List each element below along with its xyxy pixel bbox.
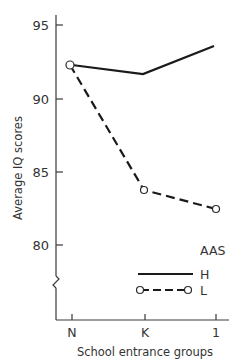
y-axis-label: Average IQ scores: [11, 116, 25, 220]
legend-l-marker-right: [185, 287, 192, 294]
legend: AAS H L: [137, 243, 226, 298]
series-l-marker-n: [66, 61, 74, 69]
x-tick-label-k: K: [141, 325, 150, 340]
y-tick-label-80: 80: [32, 238, 49, 253]
series-l-marker-1: [213, 206, 220, 213]
axis-break-icon: [53, 276, 59, 288]
y-tick-label-90: 90: [32, 92, 49, 107]
x-tick-label-1: 1: [212, 325, 220, 340]
legend-l-marker-left: [137, 287, 144, 294]
series-l-marker-k: [141, 187, 148, 194]
x-tick-label-n: N: [67, 325, 76, 340]
series-h-line: [72, 46, 214, 74]
x-axis: N K 1 School entrance groups: [56, 314, 229, 359]
y-tick-label-95: 95: [32, 18, 49, 33]
legend-l-label: L: [200, 283, 207, 298]
legend-title: AAS: [200, 243, 225, 258]
legend-h-label: H: [200, 267, 209, 282]
y-tick-label-85: 85: [32, 165, 49, 180]
y-axis: 95 90 85 80 Average IQ scores: [11, 15, 63, 320]
line-chart: 95 90 85 80 Average IQ scores N K 1 Scho…: [0, 0, 239, 363]
x-axis-label: School entrance groups: [77, 345, 213, 359]
